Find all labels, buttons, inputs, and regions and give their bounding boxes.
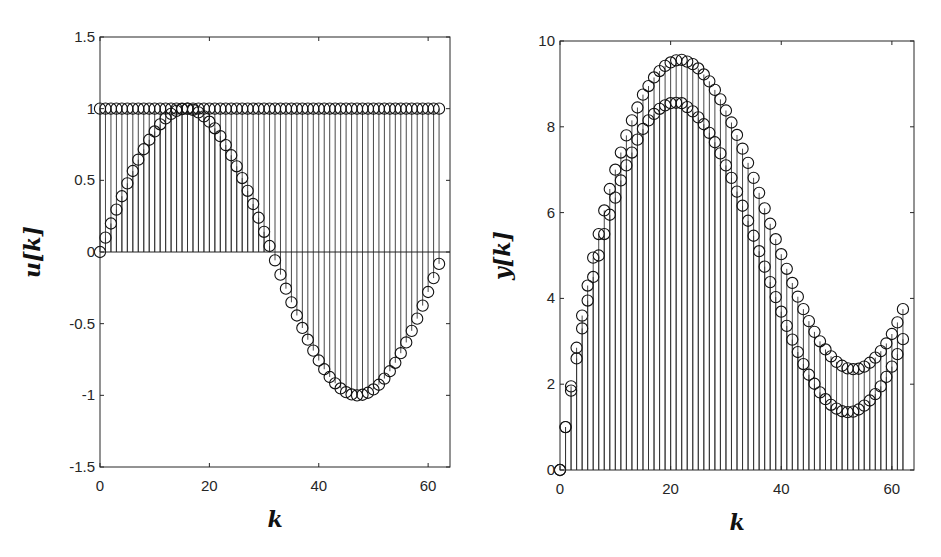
y-tick-label: -1.5 [69, 458, 95, 475]
x-tick-label: 0 [96, 477, 104, 494]
x-tick-label: 60 [420, 477, 437, 494]
right-panel-y: 02040600246810ky[k] [489, 32, 914, 535]
y-tick-label: 10 [538, 32, 555, 49]
x-tick-label: 20 [662, 480, 679, 497]
left-panel-u: 0204060-1.5-1-0.500.511.5ku[k] [19, 28, 450, 532]
y-tick-label: 0 [547, 461, 555, 478]
y-tick-label: 4 [547, 289, 555, 306]
y-tick-label: 0 [87, 243, 95, 260]
y-axis-label: y[k] [489, 231, 515, 281]
x-tick-label: 40 [310, 477, 327, 494]
x-axis-label: k [729, 509, 744, 535]
stem-series-group [554, 54, 908, 475]
y-tick-label: 1 [87, 100, 95, 117]
y-tick-label: 6 [547, 204, 555, 221]
y-tick-label: -1 [82, 386, 95, 403]
x-tick-label: 40 [773, 480, 790, 497]
x-axis-label: k [267, 506, 282, 532]
x-tick-label: 20 [201, 477, 218, 494]
y-tick-label: -0.5 [69, 315, 95, 332]
y-tick-label: 8 [547, 118, 555, 135]
x-tick-label: 0 [556, 480, 564, 497]
figure: 0204060-1.5-1-0.500.511.5ku[k] 020406002… [0, 0, 941, 557]
y-tick-label: 1.5 [74, 28, 95, 45]
y-axis-label: u[k] [19, 226, 45, 278]
y-tick-label: 2 [547, 375, 555, 392]
y-tick-label: 0.5 [74, 171, 95, 188]
x-tick-label: 60 [884, 480, 901, 497]
